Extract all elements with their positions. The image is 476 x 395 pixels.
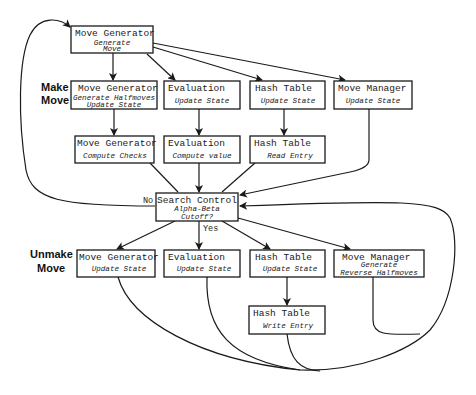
- node-title: Move Generator: [79, 252, 159, 263]
- node-line: Move: [103, 45, 122, 53]
- edge-yes-to-unmake-generator: [117, 221, 175, 249]
- node-line: Update State: [261, 97, 316, 105]
- node-title: Hash Table: [255, 83, 312, 94]
- edge-generate-to-eval-update: [147, 54, 175, 80]
- node-unmake-move-manager: Move Manager Generate Reverse Halfmoves: [334, 250, 424, 277]
- node-line: Alpha-Beta: [173, 205, 220, 213]
- node-line: Compute value: [172, 152, 232, 160]
- node-title: Hash Table: [255, 252, 312, 263]
- no-label: No: [143, 196, 153, 206]
- node-line: Cutoff?: [181, 213, 213, 221]
- node-unmake-hash-table: Hash Table Update State: [250, 250, 325, 277]
- node-make-evaluation: Evaluation Update State: [164, 81, 240, 109]
- make-move-label-line2: Move: [41, 94, 69, 106]
- edge-generate-to-manager-update: [153, 43, 345, 80]
- node-title: Hash Table: [253, 308, 310, 319]
- node-line: Update State: [177, 265, 232, 273]
- unmake-move-label-line1: Unmake: [30, 248, 73, 260]
- node-line: Generate: [361, 261, 398, 269]
- node-title: Move Generator: [77, 138, 157, 149]
- make-move-label-line1: Make: [41, 81, 69, 93]
- edge-checks-to-search: [150, 163, 178, 192]
- node-search-control: Search Control Alpha-Beta Cutoff?: [156, 193, 238, 221]
- node-line: Update State: [87, 101, 142, 109]
- edge-unmake-manager-merge: [373, 277, 420, 334]
- node-title: Move Manager: [338, 83, 406, 94]
- node-compute-evaluation: Evaluation Compute value: [164, 136, 240, 163]
- node-line: Reverse Halfmoves: [340, 269, 418, 277]
- node-unmake-move-generator: Move Generator Update State: [77, 250, 159, 277]
- node-line: Update State: [175, 97, 230, 105]
- node-line: Update State: [263, 265, 318, 273]
- node-line: Compute Checks: [83, 152, 147, 160]
- edge-yes-to-unmake-manager: [238, 218, 350, 249]
- node-write-hash-table: Hash Table Write Entry: [249, 306, 325, 334]
- node-line: Update State: [346, 97, 401, 105]
- edge-read-to-search: [222, 163, 255, 192]
- node-read-hash-table: Hash Table Read Entry: [250, 136, 325, 163]
- node-line: Update State: [92, 265, 147, 273]
- node-unmake-evaluation: Evaluation Update State: [164, 250, 240, 277]
- edge-write-merge: [287, 334, 320, 371]
- node-title: Move Generator: [78, 83, 158, 94]
- node-line: Read Entry: [267, 152, 313, 160]
- node-title: Evaluation: [168, 83, 225, 94]
- node-title: Evaluation: [168, 138, 225, 149]
- node-line: Write Entry: [263, 322, 314, 330]
- node-make-move-generator: Move Generator Generate Halfmoves Update…: [71, 81, 158, 109]
- unmake-move-label-line2: Move: [37, 262, 65, 274]
- node-title: Evaluation: [168, 252, 225, 263]
- node-checks-move-generator: Move Generator Compute Checks: [75, 136, 157, 163]
- yes-label: Yes: [203, 224, 218, 234]
- node-title: Hash Table: [254, 138, 311, 149]
- node-title: Move Generator: [75, 28, 155, 39]
- node-make-move-manager: Move Manager Update State: [334, 81, 412, 109]
- node-top-move-generator: Move Generator Generate Move: [71, 26, 155, 53]
- flow-diagram: Make Move Unmake Move No Yes Move Genera…: [0, 0, 476, 395]
- node-make-hash-table: Hash Table Update State: [250, 81, 325, 109]
